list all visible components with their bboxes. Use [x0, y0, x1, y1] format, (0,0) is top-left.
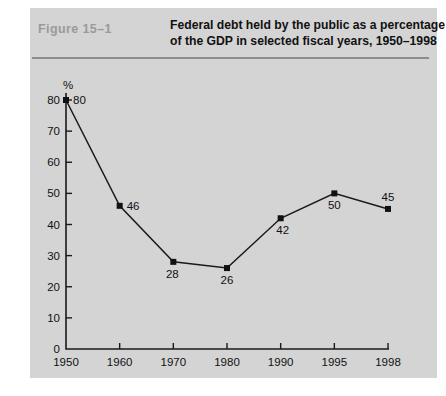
data-point-marker	[117, 203, 123, 209]
data-point-marker	[63, 97, 69, 103]
figure-number-label: Figure 15–1	[38, 22, 112, 36]
data-series-line	[66, 100, 388, 268]
data-point-value-label: 28	[166, 268, 179, 280]
x-axis-ticks: 1950196019701980199019951998	[53, 343, 401, 368]
y-axis-tick-label: 40	[47, 219, 60, 231]
title-divider	[32, 57, 429, 59]
y-axis-tick-label: 50	[47, 187, 60, 199]
figure-title-line-1: Federal debt held by the public as a per…	[170, 18, 440, 34]
data-point-value-label: 42	[276, 224, 289, 236]
data-point-labels: 80462826425045	[73, 94, 394, 286]
line-chart-svg: 01020304050607080 1950196019701980199019…	[30, 63, 437, 378]
x-axis-tick-label: 1970	[161, 356, 187, 368]
y-axis-tick-label: 20	[47, 281, 60, 293]
x-axis-tick-label: 1960	[107, 356, 133, 368]
data-point-marker	[224, 265, 230, 271]
y-axis-tick-label: 30	[47, 250, 60, 262]
x-axis-tick-label: 1950	[53, 356, 79, 368]
y-axis-tick-label: 70	[47, 125, 60, 137]
y-axis-tick-label: 10	[47, 312, 60, 324]
data-point-marker	[385, 206, 391, 212]
data-point-value-label: 50	[328, 199, 341, 211]
figure-title: Federal debt held by the public as a per…	[170, 18, 440, 49]
x-axis-tick-label: 1995	[322, 356, 348, 368]
y-axis-tick-label: 80	[47, 94, 60, 106]
y-axis-unit-label: %	[63, 79, 73, 91]
data-point-value-label: 46	[127, 200, 140, 212]
data-point-marker	[331, 190, 337, 196]
chart-plot-area: 01020304050607080 1950196019701980199019…	[30, 63, 437, 378]
data-point-marker	[278, 215, 284, 221]
data-point-value-label: 26	[221, 274, 234, 286]
chart-axes	[66, 93, 389, 349]
y-axis-tick-label: 0	[54, 343, 60, 355]
data-point-value-label: 80	[73, 94, 86, 106]
figure-panel: Figure 15–1 Federal debt held by the pub…	[30, 8, 437, 378]
y-axis-ticks: 01020304050607080	[47, 94, 72, 355]
data-point-marker	[170, 259, 176, 265]
x-axis-tick-label: 1980	[214, 356, 240, 368]
x-axis-tick-label: 1990	[268, 356, 294, 368]
data-point-markers	[63, 97, 391, 271]
y-axis-tick-label: 60	[47, 156, 60, 168]
data-point-value-label: 45	[382, 191, 395, 203]
figure-title-line-2: of the GDP in selected fiscal years, 195…	[170, 34, 440, 50]
x-axis-tick-label: 1998	[375, 356, 401, 368]
